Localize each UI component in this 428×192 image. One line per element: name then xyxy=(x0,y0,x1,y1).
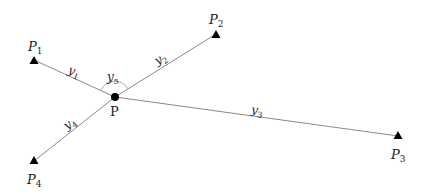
center-point-marker xyxy=(111,93,119,101)
label-y4: y4 xyxy=(60,114,80,135)
diagram-canvas: P1 P2 P3 P4 P y1 y2 y3 y4 y5 xyxy=(0,0,428,192)
label-p1: P1 xyxy=(27,39,42,56)
triangle-marker-p2 xyxy=(212,30,221,38)
label-p2: P2 xyxy=(208,12,223,29)
label-y3: y3 xyxy=(249,102,264,119)
triangle-marker-p1 xyxy=(30,56,39,64)
label-p3: P3 xyxy=(390,147,406,164)
triangle-marker-p3 xyxy=(394,131,403,139)
label-y5: y5 xyxy=(106,70,119,86)
label-y2: y2 xyxy=(151,50,170,70)
label-p4: P4 xyxy=(26,172,42,189)
label-center-p: P xyxy=(110,104,119,119)
triangle-marker-p4 xyxy=(30,156,39,164)
label-y1: y1 xyxy=(65,62,83,81)
